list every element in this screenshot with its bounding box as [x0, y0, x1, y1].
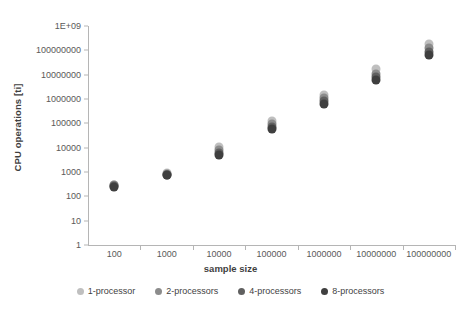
y-axis-tick-label: 1E+09	[55, 21, 88, 31]
y-axis-tick-mark	[84, 123, 88, 124]
x-axis-tick-label: 100	[107, 249, 122, 259]
data-point	[424, 50, 433, 59]
x-axis-tick-mark	[455, 246, 456, 250]
x-axis-tick-mark	[403, 246, 404, 250]
data-point	[267, 124, 276, 133]
y-axis-tick-mark	[84, 220, 88, 221]
legend-item: 8-processors	[321, 286, 384, 296]
y-axis-tick-mark	[84, 245, 88, 246]
x-axis-tick-label: 100000000	[406, 249, 451, 259]
y-axis-tick-mark	[84, 74, 88, 75]
y-axis-tick-mark	[84, 26, 88, 27]
x-axis-line	[88, 245, 456, 246]
legend-item: 1-processor	[77, 286, 136, 296]
legend-item: 4-processors	[238, 286, 301, 296]
legend-marker-icon	[155, 288, 162, 295]
data-point	[162, 171, 171, 180]
x-axis-tick-label: 1000000	[306, 249, 341, 259]
y-axis-tick-mark	[84, 50, 88, 51]
legend-item: 2-processors	[155, 286, 218, 296]
x-axis-title: sample size	[0, 263, 461, 274]
chart-legend: 1-processor2-processors4-processors8-pro…	[0, 286, 461, 296]
x-axis-tick-mark	[350, 246, 351, 250]
data-point	[110, 183, 119, 192]
x-axis-tick-label: 100000	[256, 249, 286, 259]
x-axis-tick-label: 1000	[157, 249, 177, 259]
y-axis-tick-label: 1000000	[46, 94, 88, 104]
x-axis-tick-mark	[140, 246, 141, 250]
legend-label: 4-processors	[249, 286, 301, 296]
y-axis-tick-mark	[84, 172, 88, 173]
y-axis-tick-mark	[84, 196, 88, 197]
data-point	[319, 99, 328, 108]
y-axis-tick-mark	[84, 99, 88, 100]
legend-label: 1-processor	[88, 286, 136, 296]
x-axis-tick-mark	[193, 246, 194, 250]
data-point	[215, 150, 224, 159]
legend-label: 8-processors	[332, 286, 384, 296]
x-axis-tick-label: 10000	[207, 249, 232, 259]
y-axis-tick-label: 100000	[51, 118, 88, 128]
legend-marker-icon	[77, 288, 84, 295]
plot-area: 1101001000100001000001000000100000001000…	[88, 26, 455, 245]
x-axis-tick-mark	[298, 246, 299, 250]
legend-marker-icon	[321, 288, 328, 295]
y-axis-tick-label: 10000000	[41, 70, 88, 80]
y-axis-tick-label: 100000000	[36, 45, 88, 55]
data-point	[372, 75, 381, 84]
x-axis-tick-label: 10000000	[356, 249, 396, 259]
x-axis-tick-mark	[245, 246, 246, 250]
scatter-chart: CPU operations [ti] 11010010001000010000…	[0, 0, 461, 314]
legend-label: 2-processors	[166, 286, 218, 296]
plot-wrapper: 1101001000100001000001000000100000001000…	[0, 0, 461, 260]
y-axis-tick-mark	[84, 147, 88, 148]
legend-marker-icon	[238, 288, 245, 295]
